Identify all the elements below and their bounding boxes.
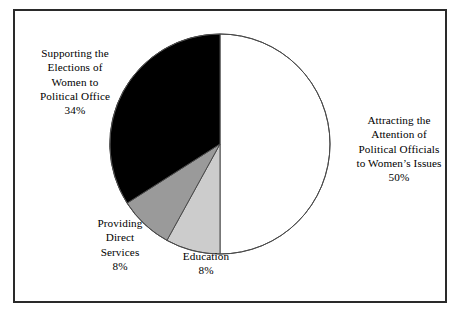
label-line: Providing <box>76 216 164 230</box>
label-percent: 8% <box>160 263 252 277</box>
label-line: Political Officials <box>338 142 460 156</box>
label-percent: 50% <box>338 170 460 184</box>
label-percent: 34% <box>14 103 136 117</box>
label-line: Education <box>160 249 252 263</box>
chart-plot-area: Supporting the Elections of Women to Pol… <box>0 0 461 318</box>
label-line: Political Office <box>14 89 136 103</box>
slice-label-supporting-elections: Supporting the Elections of Women to Pol… <box>14 46 136 117</box>
label-line: Elections of <box>14 60 136 74</box>
slice-label-providing-direct-services: Providing Direct Services 8% <box>76 216 164 273</box>
pie-chart-figure: Supporting the Elections of Women to Pol… <box>0 0 461 318</box>
label-line: Supporting the <box>14 46 136 60</box>
label-line: Attracting the <box>338 113 460 127</box>
slice-label-education: Education 8% <box>160 249 252 278</box>
slice-label-attracting-attention: Attracting the Attention of Political Of… <box>338 113 460 184</box>
label-percent: 8% <box>76 259 164 273</box>
pie-slice-attracting-attention[interactable] <box>220 34 330 254</box>
label-line: Women to <box>14 75 136 89</box>
label-line: Direct <box>76 230 164 244</box>
label-line: Services <box>76 245 164 259</box>
label-line: Attention of <box>338 127 460 141</box>
label-line: to Women’s Issues <box>338 156 460 170</box>
